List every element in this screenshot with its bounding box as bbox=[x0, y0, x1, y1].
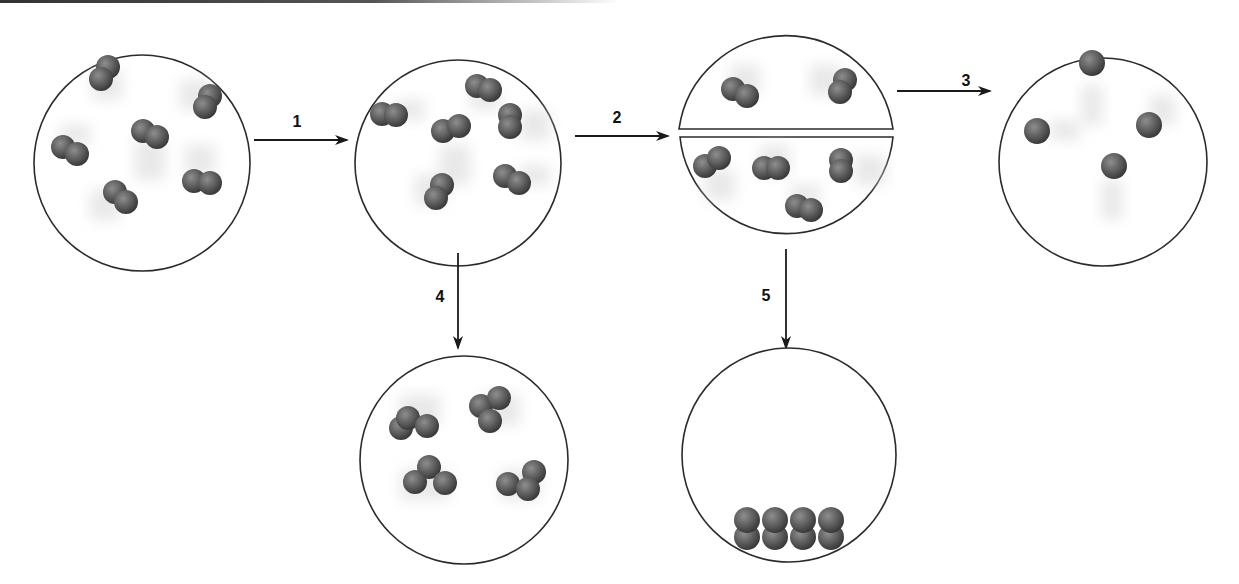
step-label: 1 bbox=[293, 113, 302, 130]
step-label: 2 bbox=[613, 109, 622, 126]
container-after-5 bbox=[682, 348, 896, 562]
container-after-1 bbox=[355, 60, 561, 266]
step-label: 3 bbox=[962, 72, 971, 89]
container-after-2-split bbox=[679, 36, 893, 234]
container-circle bbox=[682, 348, 896, 562]
step-label: 4 bbox=[436, 288, 445, 305]
molecular-process-diagram: 1 2 bbox=[0, 0, 1239, 584]
step-label: 5 bbox=[762, 287, 771, 304]
molecule bbox=[89, 55, 122, 100]
container-after-4 bbox=[360, 356, 568, 564]
step-arrow-4: 4 bbox=[436, 253, 458, 348]
step-arrow-2: 2 bbox=[575, 109, 668, 136]
step-arrow-5: 5 bbox=[762, 249, 786, 348]
container-initial bbox=[34, 55, 250, 271]
container-after-3 bbox=[999, 50, 1207, 266]
step-arrow-3: 3 bbox=[897, 72, 990, 91]
container-top-half bbox=[679, 36, 893, 129]
molecule bbox=[131, 119, 169, 180]
atom bbox=[1079, 50, 1105, 125]
step-arrow-1: 1 bbox=[254, 113, 347, 140]
container-circle bbox=[360, 356, 568, 564]
